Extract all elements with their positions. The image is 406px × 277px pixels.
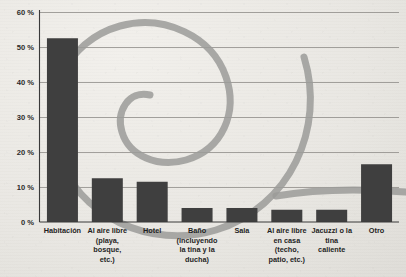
bar[interactable]: [137, 182, 168, 222]
y-axis-tick-label: 30 %: [17, 113, 35, 122]
category-label: Otro: [369, 226, 385, 235]
category-label: Sala: [234, 226, 250, 235]
category-label: Hotel: [143, 226, 161, 235]
category-label: Habitación: [44, 226, 81, 235]
bar[interactable]: [271, 210, 302, 222]
bar[interactable]: [182, 208, 213, 222]
decorative-spiral: [52, 23, 311, 236]
y-axis-tick-label: 60 %: [17, 8, 35, 17]
bar[interactable]: [92, 178, 123, 222]
y-axis-ticks-group: 0 %10 %20 %30 %40 %50 %60 %: [17, 8, 35, 227]
bar[interactable]: [316, 210, 347, 222]
y-axis-tick-label: 50 %: [17, 43, 35, 52]
bar[interactable]: [361, 164, 392, 222]
bar[interactable]: [226, 208, 257, 222]
chart-container: 0 %10 %20 %30 %40 %50 %60 % HabitaciónAl…: [0, 0, 406, 277]
bar-chart: 0 %10 %20 %30 %40 %50 %60 % HabitaciónAl…: [0, 0, 406, 277]
category-label: Jacuzzi o latinacaliente: [311, 226, 352, 254]
bar[interactable]: [47, 38, 78, 222]
category-label: Al aire libreen casa(techo,patio, etc.): [267, 226, 307, 264]
y-axis-tick-label: 10 %: [17, 183, 35, 192]
y-axis-tick-label: 20 %: [17, 148, 35, 157]
y-axis-tick-label: 0 %: [21, 218, 34, 227]
y-axis-tick-label: 40 %: [17, 78, 35, 87]
category-label: Al aire libre(playa,bosque,etc.): [87, 226, 127, 264]
